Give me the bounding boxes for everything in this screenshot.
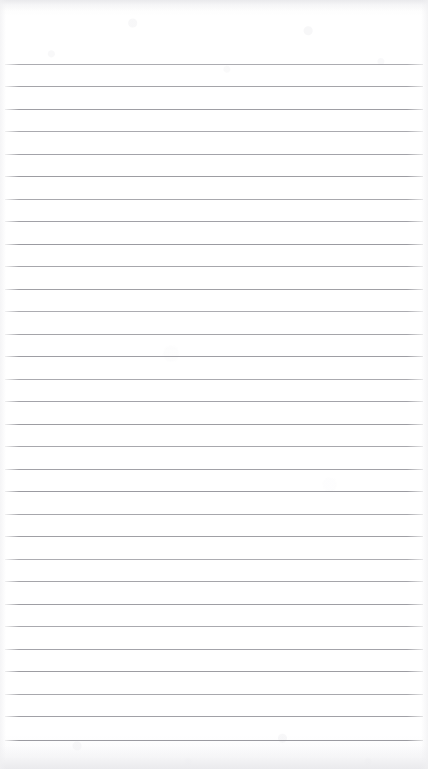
rule-line <box>5 694 423 695</box>
rule-line <box>5 559 423 560</box>
rule-line <box>5 424 423 425</box>
rule-line <box>5 244 423 245</box>
scanned-page <box>0 0 428 769</box>
rule-line <box>5 649 423 650</box>
ruled-writing-area[interactable] <box>0 0 428 769</box>
rule-line <box>5 491 423 492</box>
rule-line <box>5 716 423 717</box>
rule-line <box>5 64 423 65</box>
rule-line <box>5 334 423 335</box>
rule-line <box>5 446 423 447</box>
rule-line <box>5 379 423 380</box>
rule-line <box>5 740 423 741</box>
rule-line <box>5 154 423 155</box>
rule-line <box>5 626 423 627</box>
rule-line <box>5 289 423 290</box>
rule-line <box>5 671 423 672</box>
rule-line <box>5 469 423 470</box>
rule-line <box>5 604 423 605</box>
rule-line <box>5 514 423 515</box>
rule-line <box>5 356 423 357</box>
rule-line <box>5 199 423 200</box>
rule-line <box>5 109 423 110</box>
rule-line <box>5 86 423 87</box>
rule-line <box>5 131 423 132</box>
rule-line <box>5 311 423 312</box>
rule-line <box>5 581 423 582</box>
rule-line <box>5 401 423 402</box>
rule-line <box>5 221 423 222</box>
rule-line <box>5 266 423 267</box>
rule-line <box>5 536 423 537</box>
rule-line <box>5 176 423 177</box>
